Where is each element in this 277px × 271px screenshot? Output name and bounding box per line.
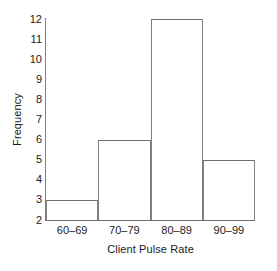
histogram-figure: Frequency 23456789101112 60–6970–7980–89… [0,0,277,271]
y-axis-tick-label: 9 [20,74,42,85]
y-axis-tick-label: 5 [20,154,42,165]
histogram-bar [203,160,255,220]
y-axis-line [45,18,46,220]
y-axis-tick-labels: 23456789101112 [20,0,42,271]
histogram-bar [151,19,203,220]
y-axis-tick-label: 2 [20,215,42,226]
x-axis-tick-label: 60–69 [46,224,98,237]
histogram-bar [46,200,98,220]
x-axis-tick-label: 90–99 [203,224,255,237]
x-axis-tick-label: 70–79 [98,224,150,237]
x-axis-tick-label: 80–89 [151,224,203,237]
histogram-bar [98,140,150,220]
y-axis-tick-label: 11 [20,34,42,45]
y-axis-tick-label: 12 [20,14,42,25]
plot-area [46,19,255,220]
y-axis-tick-label: 4 [20,174,42,185]
y-axis-tick-label: 7 [20,114,42,125]
y-axis-tick-label: 3 [20,194,42,205]
x-axis-line [45,220,255,221]
x-axis-title: Client Pulse Rate [46,243,255,256]
y-axis-tick-label: 6 [20,134,42,145]
x-axis-tick-labels: 60–6970–7980–8990–99 [46,224,255,240]
y-axis-tick-label: 10 [20,54,42,65]
y-axis-tick-label: 8 [20,94,42,105]
